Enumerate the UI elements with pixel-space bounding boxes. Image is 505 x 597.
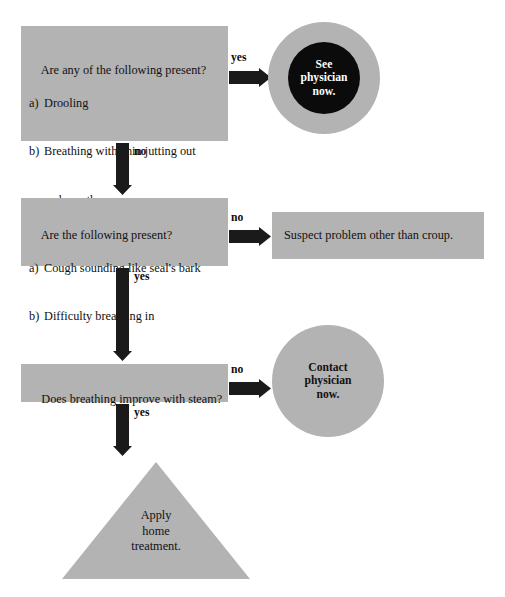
edge-label-q2-no: no [231, 211, 243, 224]
outcome-apply-home-treatment-line3: treatment. [86, 539, 226, 555]
outcome-see-physician-line3: now. [300, 85, 347, 99]
edge-label-q1-no: no [134, 145, 146, 158]
item-b-label: b) [29, 143, 44, 159]
outcome-see-physician-text: See physician now. [300, 58, 347, 99]
outcome-see-physician: See physician now. [288, 42, 360, 114]
item-a-label: a) [29, 260, 44, 276]
decision-box-1-title: Are any of the following present? [41, 63, 207, 77]
edge-label-q3-no: no [231, 363, 243, 376]
outcome-see-physician-line2: physician [300, 71, 347, 85]
outcome-apply-home-treatment-text: Apply home treatment. [86, 508, 226, 555]
arrow-down-q2-yes [113, 268, 132, 361]
decision-box-1-item-a: a)Drooling [29, 95, 229, 111]
outcome-apply-home-treatment-line1: Apply [86, 508, 226, 524]
outcome-contact-physician-text: Contact physician now. [304, 361, 351, 402]
item-a-label: a) [29, 95, 44, 111]
outcome-suspect-other-problem: Suspect problem other than croup. [272, 212, 484, 259]
item-b-text: Difficulty breathing in [44, 309, 154, 323]
flowchart-canvas: Are any of the following present? a)Droo… [0, 0, 505, 597]
edge-label-q2-yes: yes [134, 270, 149, 283]
edge-label-q3-yes: yes [134, 406, 149, 419]
outcome-apply-home-treatment-line2: home [86, 524, 226, 540]
outcome-suspect-other-problem-text: Suspect problem other than croup. [272, 228, 453, 243]
outcome-contact-physician-line3: now. [304, 388, 351, 402]
item-b-label: b) [29, 308, 44, 324]
arrow-right-q2-no [229, 227, 271, 246]
edge-label-q1-yes: yes [231, 51, 246, 64]
outcome-see-physician-line1: See [300, 58, 347, 72]
arrow-right-q1-yes [229, 68, 271, 87]
arrow-down-q1-no [113, 143, 132, 195]
arrow-down-q3-yes [113, 404, 132, 456]
decision-box-2-title: Are the following present? [41, 228, 172, 242]
outcome-contact-physician-line2: physician [304, 374, 351, 388]
item-a-text: Drooling [44, 96, 88, 110]
arrow-right-q3-no [229, 379, 271, 398]
outcome-contact-physician: Contact physician now. [272, 325, 384, 437]
outcome-contact-physician-line1: Contact [304, 361, 351, 375]
